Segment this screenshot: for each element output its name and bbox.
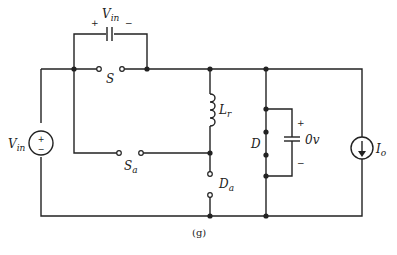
svg-text:+: + bbox=[38, 135, 45, 144]
svg-text:−: − bbox=[38, 145, 45, 154]
figure-caption: (g) bbox=[192, 228, 206, 238]
switch-sa-terminal-left bbox=[117, 151, 122, 156]
inductor-label: Lr bbox=[219, 104, 231, 119]
current-source-label: Io bbox=[376, 143, 386, 158]
wire-cap0-top bbox=[266, 109, 292, 137]
vin-cap-minus-sign: − bbox=[125, 19, 133, 28]
wire-cap-right bbox=[114, 34, 147, 69]
cap0-plus-sign: + bbox=[297, 119, 305, 128]
inductor-coil bbox=[210, 94, 215, 126]
vin-cap-label: Vin bbox=[102, 8, 119, 23]
diode-da-terminal-top bbox=[208, 172, 213, 177]
circuit-diagram: + − bbox=[0, 0, 397, 255]
vin-cap-plus-sign: + bbox=[91, 19, 99, 28]
switch-sa-label: Sa bbox=[124, 160, 138, 175]
diode-da-terminal-bottom bbox=[208, 193, 213, 198]
switch-s-terminal-left bbox=[97, 67, 102, 72]
wire-cap0-bottom bbox=[266, 141, 292, 176]
wire-top-right bbox=[124, 69, 362, 215]
cap0-voltage-label: 0v bbox=[305, 134, 319, 146]
cap0-minus-sign: − bbox=[297, 159, 305, 168]
switch-sa-terminal-right bbox=[139, 151, 144, 156]
diode-d-label: D bbox=[251, 138, 261, 150]
switch-s-terminal-right bbox=[120, 67, 125, 72]
wire-cap-left bbox=[74, 34, 106, 69]
voltage-source-label: Vin bbox=[8, 138, 25, 153]
diode-da-label: Da bbox=[219, 178, 234, 193]
switch-s-label: S bbox=[106, 73, 114, 85]
wire-bottom-rail bbox=[41, 157, 362, 216]
